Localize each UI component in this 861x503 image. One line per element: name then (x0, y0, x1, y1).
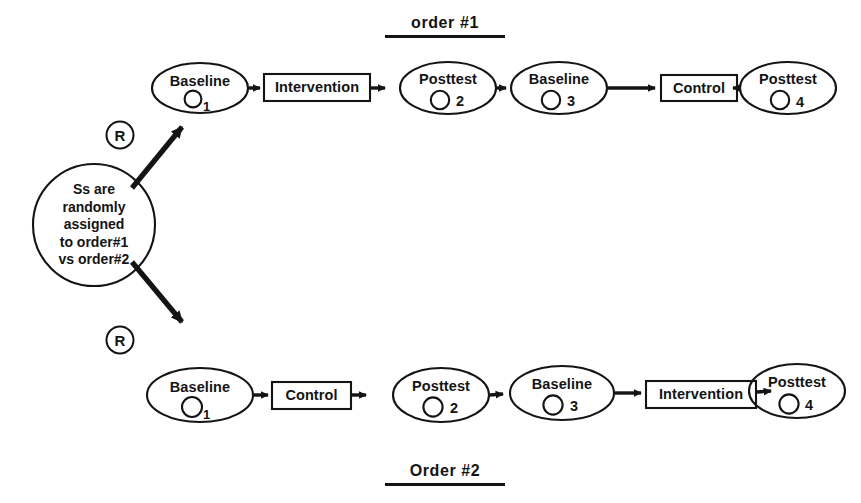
diagram-canvas: order #1 Order #2 Ss are randomly assign… (0, 0, 861, 503)
flow-arrow-5-order-2 (757, 391, 771, 392)
order-1-heading-underline (385, 35, 505, 38)
hub-line-4: to order#1 (34, 234, 154, 252)
hub-line-5: vs order#2 (34, 251, 154, 269)
node-index-baseline-1-order-2: 1 (203, 407, 210, 422)
observation-circle-posttest-2-order-2 (423, 397, 442, 416)
observation-circle-baseline-3-order-1 (542, 91, 560, 109)
node-label-baseline-3-order-1: Baseline (511, 71, 607, 87)
node-label-intervention-order-1: Intervention (264, 79, 370, 95)
node-label-intervention-order-2: Intervention (646, 386, 756, 402)
branch-arrow-to-order-1 (132, 127, 182, 188)
observation-circle-baseline-1-order-2 (182, 397, 202, 417)
hub-line-1: Ss are (34, 181, 154, 199)
order-2-heading-underline (385, 483, 505, 486)
node-index-posttest-2-order-2: 2 (450, 400, 458, 416)
observation-circle-posttest-4-order-1 (771, 91, 789, 109)
node-label-baseline-1-order-1: Baseline (152, 73, 248, 89)
observation-circle-posttest-2-order-1 (431, 91, 449, 109)
node-label-baseline-1-order-2: Baseline (152, 379, 248, 395)
node-label-posttest-4-order-2: Posttest (749, 374, 845, 390)
hub-line-2: randomly (34, 199, 154, 217)
randomization-marker-bottom: R (108, 332, 132, 349)
node-label-posttest-2-order-1: Posttest (400, 71, 496, 87)
randomization-marker-top: R (108, 127, 132, 144)
observation-circle-baseline-1-order-1 (185, 91, 202, 108)
observation-circle-posttest-4-order-2 (779, 394, 798, 413)
node-index-baseline-3-order-2: 3 (570, 398, 578, 414)
node-index-baseline-3-order-1: 3 (567, 93, 575, 109)
order-2-heading: Order #2 (385, 462, 505, 486)
branch-arrow-to-order-2 (132, 262, 182, 322)
node-index-posttest-4-order-1: 4 (796, 94, 804, 110)
order-1-heading-text: order #1 (411, 14, 479, 31)
node-shape-baseline-3-order-2 (510, 366, 614, 420)
order-1-heading: order #1 (385, 14, 505, 38)
node-label-posttest-4-order-1: Posttest (740, 71, 836, 87)
hub-label: Ss are randomly assigned to order#1 vs o… (34, 181, 154, 269)
node-label-baseline-3-order-2: Baseline (514, 376, 610, 392)
node-label-control-order-2: Control (272, 387, 351, 403)
hub-line-3: assigned (34, 216, 154, 234)
node-index-posttest-2-order-1: 2 (456, 93, 464, 109)
observation-circle-baseline-3-order-2 (543, 395, 562, 414)
node-label-control-order-1: Control (661, 80, 737, 96)
order-2-heading-text: Order #2 (410, 462, 481, 479)
flow-arrow-3-order-2 (490, 394, 503, 395)
node-label-posttest-2-order-2: Posttest (393, 378, 489, 394)
node-index-baseline-1-order-1: 1 (203, 99, 210, 114)
node-index-posttest-4-order-2: 4 (805, 397, 813, 413)
